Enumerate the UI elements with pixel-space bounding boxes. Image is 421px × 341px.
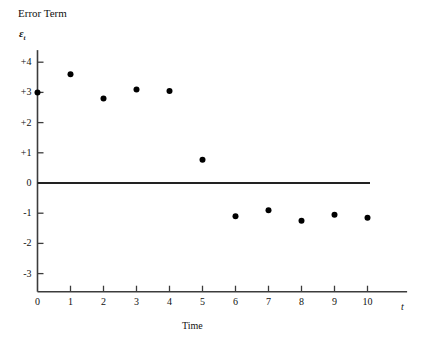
data-point [68, 71, 74, 77]
data-point [332, 212, 338, 218]
x-tick-label: 2 [94, 297, 114, 307]
y-tick-label: 0 [6, 178, 32, 188]
plot-area [0, 0, 421, 341]
chart-figure: Error Term εt +4+3+2+10-1-2-301234567891… [0, 0, 421, 341]
x-tick-label: 1 [61, 297, 81, 307]
x-axis-symbol: t [401, 302, 404, 312]
y-tick-label: +3 [6, 87, 32, 97]
x-tick-label: 4 [160, 297, 180, 307]
x-axis-title: Time [182, 321, 203, 331]
data-point [167, 88, 173, 94]
x-tick-label: 5 [193, 297, 213, 307]
data-point [200, 157, 206, 163]
data-point [266, 207, 272, 213]
y-tick-label: +2 [6, 118, 32, 128]
x-tick-label: 10 [358, 297, 378, 307]
data-point [134, 86, 140, 92]
x-tick-label: 9 [325, 297, 345, 307]
y-tick-label: -2 [6, 238, 32, 248]
data-point [35, 89, 41, 95]
y-tick-label: +4 [6, 57, 32, 67]
x-tick-label: 6 [226, 297, 246, 307]
data-point [299, 218, 305, 224]
x-tick-label: 8 [292, 297, 312, 307]
y-tick-label: -3 [6, 269, 32, 279]
y-tick-label: +1 [6, 148, 32, 158]
x-tick-label: 7 [259, 297, 279, 307]
data-point [365, 215, 371, 221]
x-tick-label: 0 [28, 297, 48, 307]
y-tick-label: -1 [6, 208, 32, 218]
data-point [233, 213, 239, 219]
x-tick-label: 3 [127, 297, 147, 307]
data-point [101, 95, 107, 101]
